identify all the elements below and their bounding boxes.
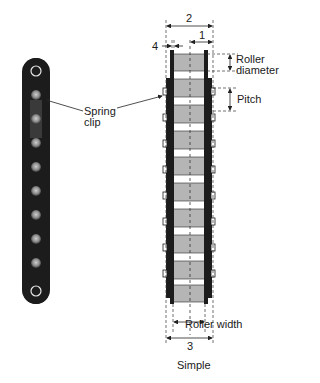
- dimension-3-label: 3: [187, 341, 193, 352]
- dimension-4-label: 4: [152, 41, 158, 52]
- roller-width-label: Roller width: [185, 319, 242, 330]
- spring-clip-label: Spring clip: [84, 106, 116, 128]
- chain-side-view: [22, 58, 50, 304]
- dimension-2-label: 2: [186, 13, 192, 24]
- chain-top-view: [163, 40, 215, 335]
- roller-diameter-label-line2: diameter: [236, 65, 279, 76]
- spring-clip-label-line2: clip: [84, 117, 116, 128]
- pitch-label: Pitch: [237, 94, 261, 105]
- caption: Simple: [177, 360, 211, 371]
- dimension-1-label: 1: [199, 30, 205, 41]
- roller-diameter-label: Roller diameter: [236, 54, 279, 76]
